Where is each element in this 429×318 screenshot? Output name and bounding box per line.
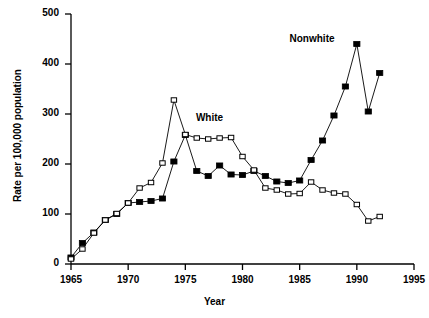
y-tick-300: 300 — [25, 107, 59, 118]
data-point-nonwhite-1988 — [331, 113, 337, 118]
data-point-nonwhite-1982 — [262, 173, 268, 178]
data-point-white-1977 — [206, 137, 211, 141]
data-point-nonwhite-1978 — [217, 163, 223, 168]
y-tick-100: 100 — [25, 207, 59, 218]
data-point-white-1990 — [354, 202, 359, 206]
data-point-nonwhite-1986 — [308, 157, 314, 162]
data-point-white-1966 — [80, 247, 85, 251]
data-point-white-1968 — [103, 218, 108, 222]
series-label-nonwhite: Nonwhite — [290, 33, 335, 44]
y-axis-title: Rate per 100,000 population — [12, 56, 23, 216]
x-tick-1985: 1985 — [280, 274, 320, 285]
data-point-white-1978 — [217, 136, 222, 140]
data-point-white-1971 — [137, 186, 142, 190]
data-point-nonwhite-1990 — [354, 41, 360, 46]
x-tick-1970: 1970 — [108, 274, 148, 285]
data-point-nonwhite-1979 — [228, 172, 234, 177]
series-line-nonwhite — [71, 44, 380, 258]
data-point-nonwhite-1966 — [79, 240, 85, 245]
data-point-white-1985 — [297, 191, 302, 195]
data-point-white-1975 — [183, 132, 188, 136]
data-point-nonwhite-1973 — [159, 196, 165, 201]
y-tick-0: 0 — [25, 257, 59, 268]
x-tick-1990: 1990 — [337, 274, 377, 285]
data-point-white-1967 — [91, 231, 96, 235]
data-point-nonwhite-1976 — [194, 168, 200, 173]
data-point-white-1973 — [160, 161, 165, 165]
x-tick-1975: 1975 — [165, 274, 205, 285]
data-point-nonwhite-1983 — [274, 179, 280, 184]
x-tick-1965: 1965 — [51, 274, 91, 285]
data-point-white-1982 — [263, 186, 268, 190]
data-point-nonwhite-1991 — [365, 109, 371, 114]
data-point-white-1988 — [331, 191, 336, 195]
data-point-nonwhite-1972 — [148, 198, 154, 203]
data-point-white-1965 — [68, 257, 73, 261]
y-tick-500: 500 — [25, 7, 59, 18]
x-tick-1980: 1980 — [223, 274, 263, 285]
data-point-white-1987 — [320, 188, 325, 192]
data-point-nonwhite-1980 — [239, 172, 245, 177]
series-layer — [68, 41, 383, 261]
data-point-white-1974 — [171, 98, 176, 102]
x-tick-1995: 1995 — [394, 274, 429, 285]
series-line-white — [71, 100, 380, 259]
data-point-white-1991 — [366, 219, 371, 223]
data-point-white-1980 — [240, 154, 245, 158]
data-point-white-1969 — [114, 211, 119, 215]
chart-container: Rate per 100,000 population Year 5004003… — [0, 0, 429, 318]
data-point-white-1970 — [125, 201, 130, 205]
data-point-white-1989 — [343, 192, 348, 196]
data-point-nonwhite-1977 — [205, 173, 211, 178]
y-tick-200: 200 — [25, 157, 59, 168]
data-point-white-1984 — [286, 192, 291, 196]
data-point-nonwhite-1987 — [319, 138, 325, 143]
y-tick-400: 400 — [25, 57, 59, 68]
data-point-nonwhite-1971 — [137, 199, 143, 204]
data-point-white-1976 — [194, 136, 199, 140]
data-point-nonwhite-1974 — [171, 159, 177, 164]
data-point-nonwhite-1989 — [342, 84, 348, 89]
data-point-white-1979 — [228, 135, 233, 139]
series-label-white: White — [196, 112, 223, 123]
data-point-white-1992 — [377, 214, 382, 218]
line-chart-plot — [0, 0, 429, 318]
data-point-nonwhite-1992 — [377, 70, 383, 75]
x-axis-title: Year — [0, 296, 429, 307]
data-point-nonwhite-1985 — [297, 178, 303, 183]
data-point-white-1981 — [251, 168, 256, 172]
data-point-white-1972 — [148, 180, 153, 184]
axis-lines — [65, 14, 414, 270]
data-point-nonwhite-1984 — [285, 180, 291, 185]
data-point-white-1983 — [274, 188, 279, 192]
data-point-white-1986 — [308, 180, 313, 184]
